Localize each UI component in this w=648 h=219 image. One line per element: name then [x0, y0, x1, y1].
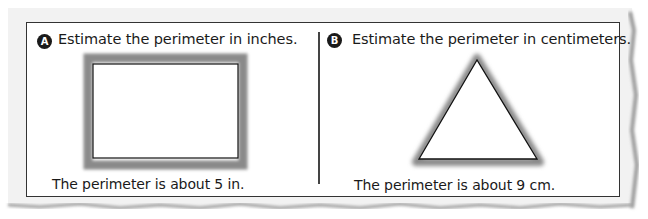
- answer-b: The perimeter is about 9 cm.: [354, 177, 555, 193]
- torn-paper-card: A Estimate the perimeter in inches. The …: [0, 0, 648, 219]
